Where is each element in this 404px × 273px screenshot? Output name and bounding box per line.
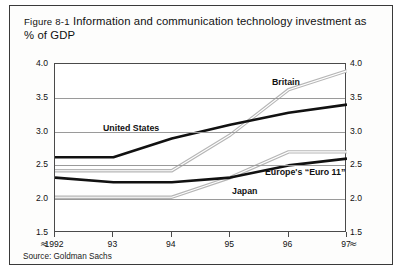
x-tick (54, 232, 55, 237)
x-tick-label: 1992 (34, 239, 74, 249)
x-tick-label: 96 (268, 239, 308, 249)
gridline (55, 199, 345, 200)
y-tick-label-left: 3.0 (22, 126, 48, 136)
x-tick (346, 232, 347, 237)
y-tick-label-right: 2.5 (350, 159, 376, 169)
gridline (55, 132, 345, 133)
plot-area (54, 63, 346, 232)
y-tick-label-right: 4.0 (350, 58, 376, 68)
source-note: Source: Goldman Sachs (23, 252, 112, 261)
x-tick-label: 97 (326, 239, 366, 249)
series-label-britain: Britain (272, 77, 300, 87)
x-tick-label: 93 (92, 239, 132, 249)
y-tick-label-left: 2.5 (22, 159, 48, 169)
x-tick (171, 232, 172, 237)
y-tick-label-right: 3.5 (350, 92, 376, 102)
figure-number: Figure 8-1 (24, 16, 70, 27)
x-tick-label: 95 (209, 239, 249, 249)
y-tick-label-right: 3.0 (350, 126, 376, 136)
series-line-britain (55, 71, 347, 171)
chart-lines (55, 64, 347, 233)
series-label-japan: Japan (232, 186, 257, 196)
x-tick (288, 232, 289, 237)
y-tick-label-left: 2.0 (22, 193, 48, 203)
y-tick-label-left: 4.0 (22, 58, 48, 68)
x-tick-label: 94 (151, 239, 191, 249)
series-label-euro11: Europe's “Euro 11” (265, 167, 345, 177)
figure-container: Figure 8-1 Information and communication… (9, 5, 393, 265)
y-tick-label-right: 1.5 (350, 227, 376, 237)
x-tick (229, 232, 230, 237)
y-tick-label-left: 3.5 (22, 92, 48, 102)
gridline (55, 98, 345, 99)
figure-title: Figure 8-1 Information and communication… (24, 15, 376, 42)
x-tick (112, 232, 113, 237)
figure-title-text: Information and communication technology… (24, 15, 367, 41)
y-tick-label-right: 2.0 (350, 193, 376, 203)
series-label-united-states: United States (103, 123, 159, 133)
y-tick-label-left: 1.5 (22, 227, 48, 237)
